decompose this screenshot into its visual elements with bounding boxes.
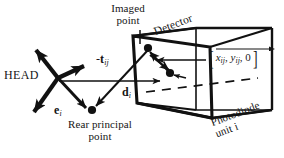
imaged-point-label-line1: Imaged — [98, 2, 158, 14]
bracket-zero: 0 — [245, 51, 251, 63]
bracket-open: [ — [209, 51, 214, 65]
rear-principal-point-label: Rear principal point — [57, 118, 143, 142]
imaged-point-label: Imaged point — [98, 2, 158, 26]
rear-principal-label-line1: Rear principal — [57, 118, 143, 130]
rear-principal-label-line2: point — [57, 130, 143, 142]
dashed-axis-line — [146, 78, 258, 92]
optical-geometry-diagram: Imaged point HEAD Detector Photodiode un… — [0, 0, 284, 158]
vector-d-symbol: d — [122, 85, 129, 99]
detector-label: Detector — [152, 26, 192, 38]
sensor-point-feed-arrow — [174, 75, 186, 78]
vector-t-subscript: ij — [104, 58, 108, 67]
sensor-point-dot — [166, 69, 174, 77]
vector-t-ij-label: -tij — [96, 53, 109, 69]
rear-principal-point-dot — [88, 106, 96, 114]
vector-d-subscript: i — [129, 91, 131, 100]
imaged-point-dot — [144, 44, 152, 52]
imaged-point-label-line2: point — [98, 14, 158, 26]
bracket-components: xij, yij, 0 — [216, 50, 251, 65]
bracket-inner: xij, yij, 0 — [215, 50, 252, 65]
arrow-imaged-to-sensor-point — [150, 55, 169, 70]
bracket-close: ] — [253, 51, 258, 65]
vector-e-subscript: i — [59, 109, 61, 118]
head-label: HEAD — [4, 69, 39, 81]
photodiode-unit-label: Photodiode unit i — [209, 117, 260, 141]
vector-d-i-label: di — [122, 86, 131, 102]
vector-overarrow-icon — [216, 46, 276, 51]
coordinate-vector-label: [ xij, yij, 0 ] — [208, 50, 259, 65]
vector-e-i-label: ei — [54, 104, 62, 120]
